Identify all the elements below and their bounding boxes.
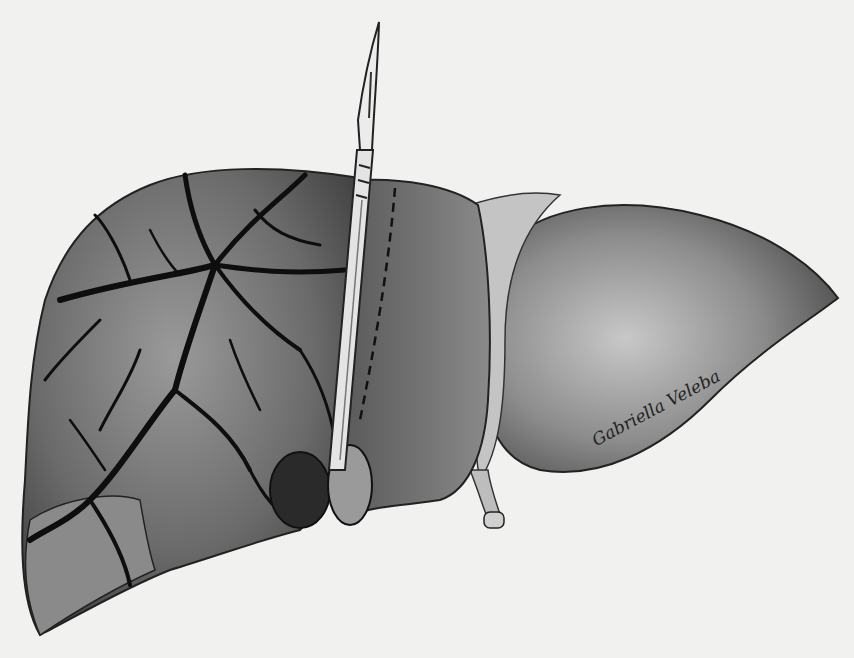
left-liver-lobe [484,205,838,472]
scalpel-blade [358,22,379,150]
liver-illustration [0,0,854,658]
illustration-canvas: Gabriella Veleba [0,0,854,658]
cut-vessel-stump [270,452,330,528]
lower-fold [26,496,155,635]
ligament-stump [484,512,504,528]
